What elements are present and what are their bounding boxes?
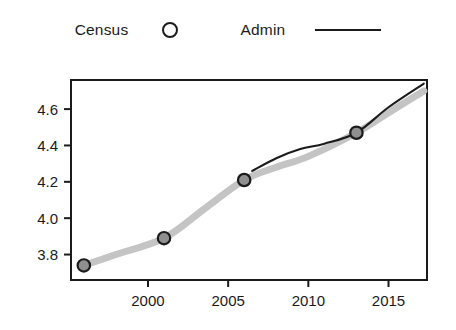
x-tick-label: 2000 [131, 292, 164, 309]
y-tick-label: 4.4 [37, 137, 58, 154]
y-tick-label: 4.2 [37, 173, 58, 190]
census-data-point [158, 232, 170, 244]
census-data-point [78, 259, 90, 271]
y-tick-label: 3.8 [37, 246, 58, 263]
x-tick-label: 2005 [211, 292, 244, 309]
y-axis-ticks: 3.84.04.24.44.6 [37, 101, 71, 263]
plot-area: 3.84.04.24.44.6 2000200520102015 [0, 0, 456, 330]
chart-figure: Census Admin 3.84.04.24.44.6 20002005201… [0, 0, 456, 330]
census-data-point [238, 174, 250, 186]
census-band-path [84, 91, 424, 266]
admin-line-path [252, 84, 424, 171]
x-tick-label: 2010 [292, 292, 325, 309]
y-tick-label: 4.6 [37, 101, 58, 118]
x-axis-ticks: 2000200520102015 [131, 280, 405, 309]
y-tick-label: 4.0 [37, 210, 58, 227]
census-data-point [350, 127, 362, 139]
x-tick-label: 2015 [372, 292, 405, 309]
